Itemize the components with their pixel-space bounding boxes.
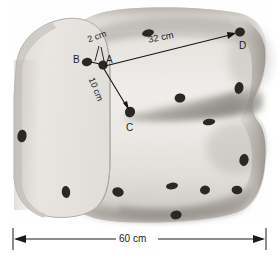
point-label-d: D (239, 40, 246, 51)
raisin-bread-figure: B A C D 2 cm 32 cm 10 cm 60 cm (0, 0, 277, 257)
bread-illustration (0, 0, 277, 257)
measurement-label-length: 60 cm (119, 233, 146, 244)
dim-arrow-left (14, 235, 26, 243)
point-label-b: B (73, 54, 80, 65)
paper-grain (10, 6, 270, 224)
dim-arrow-right (253, 235, 265, 243)
point-label-a: A (106, 54, 113, 65)
point-label-c: C (126, 122, 133, 133)
